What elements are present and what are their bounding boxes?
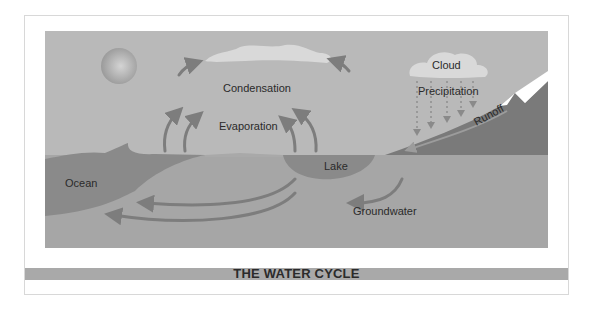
groundwater-label: Groundwater bbox=[353, 206, 417, 217]
lake-label: Lake bbox=[324, 161, 348, 172]
diagram-title: THE WATER CYCLE bbox=[25, 267, 568, 281]
evaporation-label: Evaporation bbox=[219, 121, 278, 132]
water-cycle-diagram: Condensation Evaporation Cloud Precipita… bbox=[45, 31, 548, 248]
title-band: THE WATER CYCLE bbox=[25, 268, 568, 280]
sun-icon bbox=[101, 48, 137, 84]
condensation-label: Condensation bbox=[223, 83, 291, 94]
cloud-label: Cloud bbox=[432, 60, 461, 71]
precipitation-label: Precipitation bbox=[418, 86, 479, 97]
ocean-label: Ocean bbox=[65, 178, 97, 189]
